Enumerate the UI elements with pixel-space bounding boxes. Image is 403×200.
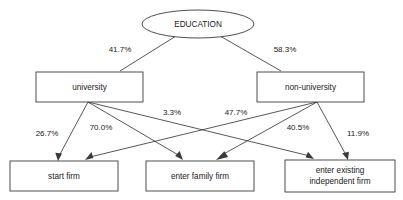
node-university-label: university — [72, 83, 107, 92]
edge-university-to-start-firm — [55, 102, 88, 161]
edge-nonuniversity-to-start-firm — [85, 102, 317, 160]
edge-label-university-to-start-firm: 26.7% — [36, 129, 59, 138]
edge-education-to-nonuniversity — [220, 36, 281, 71]
node-education-label: EDUCATION — [174, 20, 222, 29]
node-non-university-label: non-university — [285, 83, 337, 92]
edge-label-nonuniversity-to-family-firm: 40.5% — [287, 123, 310, 132]
node-enter-existing-independent-firm-label-line1: enter existing — [316, 166, 365, 175]
edge-nonuniversity-to-existing-firm — [317, 102, 349, 160]
edge-label-education-to-nonuniversity: 58.3% — [274, 45, 297, 54]
edge-label-nonuniversity-to-start-firm: 47.7% — [225, 108, 248, 117]
node-education[interactable]: EDUCATION — [142, 10, 254, 38]
edge-label-education-to-university: 41.7% — [109, 45, 132, 54]
node-non-university[interactable]: non-university — [257, 72, 364, 102]
education-pathway-diagram: EDUCATION university non-university star… — [0, 0, 403, 200]
node-enter-existing-independent-firm-label-line2: independent firm — [310, 177, 371, 186]
node-start-firm-label: start firm — [48, 172, 80, 181]
edge-label-nonuniversity-to-existing-firm: 11.9% — [347, 129, 369, 138]
node-university[interactable]: university — [36, 72, 143, 102]
node-enter-family-firm[interactable]: enter family firm — [146, 161, 254, 191]
node-start-firm[interactable]: start firm — [10, 161, 118, 191]
edge-label-university-to-existing-firm: 3.3% — [163, 108, 181, 117]
diagram-canvas: EDUCATION university non-university star… — [0, 0, 403, 200]
edge-label-university-to-family-firm: 70.0% — [90, 123, 113, 132]
node-enter-family-firm-label: enter family firm — [171, 172, 229, 181]
node-enter-existing-independent-firm[interactable]: enter existing independent firm — [285, 160, 395, 192]
